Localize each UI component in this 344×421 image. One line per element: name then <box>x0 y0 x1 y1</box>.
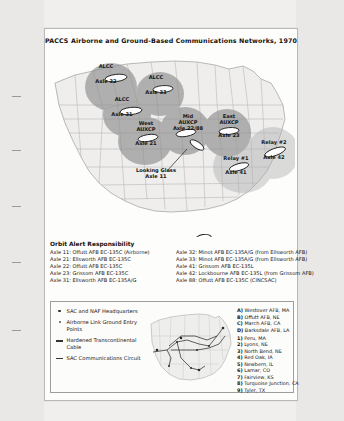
number-key-list: 1) Peru, MA 2) Lyons, NE 3) North Bend, … <box>237 335 292 394</box>
orbit-label-mid-auxcp: Mid AUXCP Axle 22/88 <box>165 113 211 131</box>
orbit-label-alcc-axle-33: ALCC Axle 33 <box>138 74 174 95</box>
page-background: PACCS Airborne and Ground-Based Communic… <box>0 0 344 421</box>
dot-large-icon <box>56 308 63 312</box>
orbit-alert-heading: Orbit Alert Responsibility <box>50 241 294 247</box>
document-sheet: PACCS Airborne and Ground-Based Communic… <box>44 28 298 401</box>
legend-hardened-transcontinental-cable: Hardened Transcontinental Cable <box>56 337 148 350</box>
legend-peacetime-orbit: Peacetime Orbit <box>195 234 259 237</box>
orbit-label-west-auxcp: West AUXCP Axle 21 <box>125 120 167 146</box>
list-item: Axle 41: Grissom AFB EC-135L <box>176 263 314 270</box>
list-item: D) Barksdale AFB, LA <box>237 327 292 334</box>
orbit-label-relay-2: Relay #2 Axle 42 <box>255 139 293 160</box>
orbit-label-alcc-axle-32: ALCC Axle 32 <box>88 63 124 84</box>
orbit-alert-column-left: Axle 11: Offutt AFB EC-135C (Airborne) A… <box>50 249 169 284</box>
ground-network-panel: SAC and NAF Headquarters Airborne Link G… <box>50 301 294 393</box>
dot-small-icon <box>56 319 63 323</box>
line-icon <box>56 337 63 342</box>
list-item: Axle 31: Ellsworth AFB EC-135A/G <box>50 277 169 284</box>
list-item: Axle 23: Grissom AFB EC-135C <box>50 270 169 277</box>
orbit-label-east-auxcp: East AUXCP Axle 23 <box>209 113 249 138</box>
list-item: Axle 42: Lockbourne AFB EC-135L (from Gr… <box>176 270 314 277</box>
scan-edge-left <box>0 0 44 421</box>
legend-sac-communications-circuit: SAC Communications Circuit <box>56 355 148 362</box>
legend-airborne-link-ground-entry: Airborne Link Ground Entry Points <box>56 319 148 332</box>
peacetime-orbit-icon <box>194 233 212 237</box>
line-icon <box>56 355 63 360</box>
orbit-label-relay-1: Relay #1 Axle 41 <box>217 155 255 175</box>
list-item: 9) Tyler, TX <box>237 387 292 394</box>
list-item: Axle 21: Ellsworth AFB EC-135C <box>50 256 169 263</box>
orbit-label-looking-glass: Looking Glass Axle 11 <box>125 167 187 179</box>
list-item: Axle 32: Minot AFB EC-135A/G (from Ellsw… <box>176 249 314 256</box>
legend-sac-naf-headquarters: SAC and NAF Headquarters <box>56 308 148 315</box>
list-item: Axle 88: Offutt AFB EC-135C (CINCSAC) <box>176 277 314 284</box>
orbit-alert-responsibility: Orbit Alert Responsibility Axle 11: Offu… <box>50 241 294 284</box>
peacetime-orbit-label: Peacetime Orbit <box>216 236 259 238</box>
inset-map <box>147 306 235 388</box>
letter-key-list: A) Westover AFB, MA B) Offutt AFB, NE C)… <box>237 307 292 333</box>
panel-key-lists: A) Westover AFB, MA B) Offutt AFB, NE C)… <box>237 307 292 393</box>
main-map: ALCC Axle 32 ALCC Axle 33 ALCC Axle 31 W… <box>47 49 295 237</box>
list-item: Axle 11: Offutt AFB EC-135C (Airborne) <box>50 249 169 256</box>
list-item: Axle 22: Offutt AFB EC-135C <box>50 263 169 270</box>
orbit-label-alcc-axle-31: ALCC Axle 31 <box>104 96 140 117</box>
page-title: PACCS Airborne and Ground-Based Communic… <box>45 37 297 44</box>
orbit-alert-column-right: Axle 32: Minot AFB EC-135A/G (from Ellsw… <box>176 249 314 284</box>
list-item: Axle 33: Minot AFB EC-135A/G (from Ellsw… <box>176 256 314 263</box>
inset-us-map-graphic <box>147 306 235 388</box>
panel-legend: SAC and NAF Headquarters Airborne Link G… <box>56 308 148 366</box>
scan-edge-right <box>296 0 344 421</box>
